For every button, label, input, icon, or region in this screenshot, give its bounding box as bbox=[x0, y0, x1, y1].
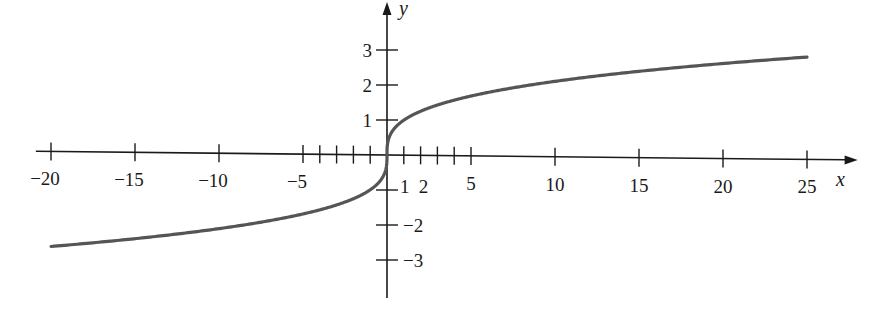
x-axis-label: x bbox=[835, 168, 845, 190]
y-axis-arrow-icon bbox=[383, 2, 392, 15]
x-tick-label: 15 bbox=[630, 175, 649, 196]
y-axis-label: y bbox=[397, 0, 408, 20]
y-tick-label: −3 bbox=[403, 250, 423, 271]
x-tick-label: 2 bbox=[419, 176, 429, 197]
x-tick-label: −15 bbox=[114, 169, 144, 190]
x-tick-label: 1 bbox=[400, 176, 410, 197]
y-tick-label: −2 bbox=[403, 215, 423, 236]
cube-root-curve bbox=[51, 57, 807, 246]
y-tick-label: 2 bbox=[363, 75, 373, 96]
x-tick-label: 5 bbox=[466, 173, 476, 194]
x-axis-line bbox=[36, 151, 846, 160]
axes: −20−15−10−512510152025321−2−3 bbox=[30, 2, 857, 298]
y-tick-label: 3 bbox=[363, 40, 373, 61]
x-tick-label: 25 bbox=[798, 176, 817, 197]
x-tick-label: 10 bbox=[546, 174, 565, 195]
x-tick-label: −5 bbox=[287, 171, 307, 192]
cube-root-plot: −20−15−10−512510152025321−2−3 x y bbox=[0, 0, 877, 321]
x-tick-label: −20 bbox=[30, 168, 60, 189]
x-tick-label: −10 bbox=[198, 170, 228, 191]
x-axis-arrow-icon bbox=[845, 155, 858, 164]
x-tick-label: 20 bbox=[714, 176, 733, 197]
y-tick-label: 1 bbox=[363, 110, 373, 131]
